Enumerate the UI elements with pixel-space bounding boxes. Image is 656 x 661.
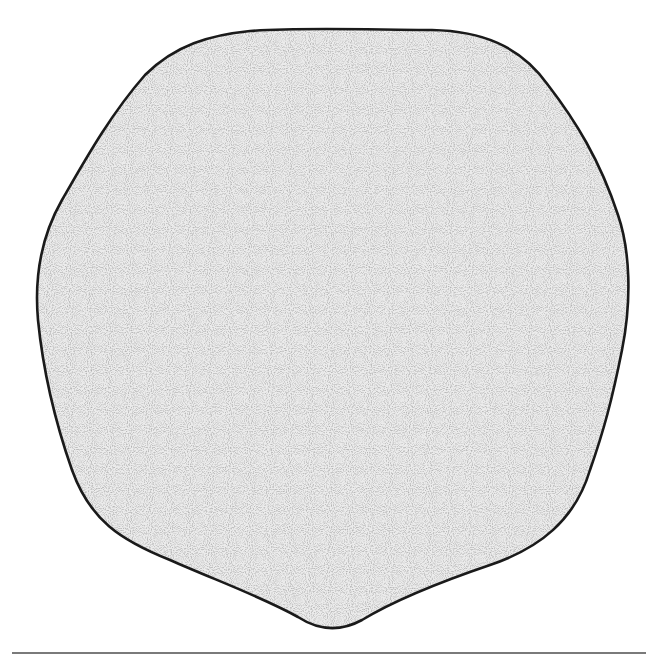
stippled-disc-illustration xyxy=(0,0,656,661)
disc-body xyxy=(0,0,656,661)
horizontal-rule xyxy=(12,652,646,654)
